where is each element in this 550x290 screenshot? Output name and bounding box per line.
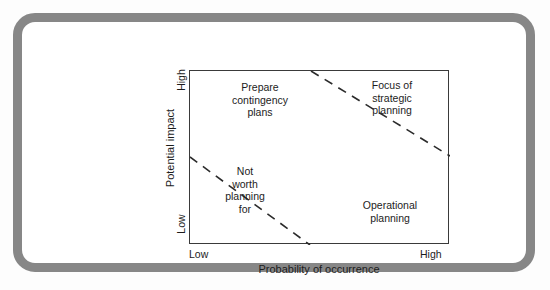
y-axis-tick-low-text: Low xyxy=(175,214,187,233)
quadrant-label-prepare-contingency-plans: Prepare contingency plans xyxy=(208,81,312,119)
y-axis-title: Potential impact xyxy=(164,93,176,203)
x-axis-tick-low: Low xyxy=(189,248,208,260)
plot-area: Prepare contingency plans Focus of strat… xyxy=(189,70,449,244)
quadrant-label-not-worth-planning-for: Not worth planning for xyxy=(206,165,284,215)
y-axis-tick-low: Low xyxy=(164,218,198,230)
quadrant-label-operational-planning: Operational planning xyxy=(336,199,444,224)
quadrant-label-focus-of-strategic-planning: Focus of strategic planning xyxy=(342,79,442,117)
y-axis-tick-high: High xyxy=(164,74,198,86)
x-axis-tick-high: High xyxy=(420,248,442,260)
figure-container: Prepare contingency plans Focus of strat… xyxy=(0,0,550,290)
y-axis-tick-high-text: High xyxy=(175,69,187,91)
x-axis-title: Probability of occurrence xyxy=(189,263,449,275)
figure-border-frame: Prepare contingency plans Focus of strat… xyxy=(13,13,535,272)
